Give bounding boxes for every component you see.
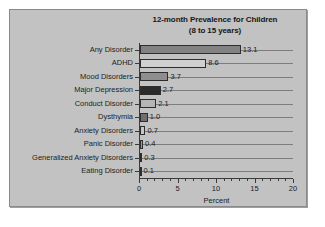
gridline (140, 158, 293, 159)
y-axis-tick (135, 131, 139, 132)
bar (140, 140, 143, 149)
y-axis-tick (135, 104, 139, 105)
category-label: Major Depression (74, 85, 133, 95)
plot-area: Any Disorder13.1ADHD8.6Mood Disorders3.7… (139, 43, 294, 178)
gridline (140, 117, 293, 118)
chart-title-line1: 12-month Prevalence for Children (153, 15, 278, 24)
bar (140, 99, 156, 108)
x-axis-minor-tick (193, 179, 194, 181)
bar (140, 153, 142, 162)
value-label: 2.1 (158, 99, 168, 109)
bar (140, 45, 241, 54)
value-label: 0.4 (145, 139, 155, 149)
x-axis-minor-tick (270, 179, 271, 181)
category-label: Any Disorder (90, 45, 133, 55)
x-axis-tick-label: 20 (289, 184, 297, 193)
bar (140, 86, 161, 95)
x-axis-major-tick (255, 179, 256, 183)
x-axis-minor-tick (224, 179, 225, 181)
x-axis-minor-tick (239, 179, 240, 181)
x-axis-minor-tick (154, 179, 155, 181)
gridline (140, 131, 293, 132)
bar-row: Eating Disorder0.1 (139, 165, 294, 179)
bar-row: Any Disorder13.1 (139, 43, 294, 57)
y-axis-tick (135, 158, 139, 159)
value-label: 13.1 (243, 45, 258, 55)
x-axis-tick-label: 15 (250, 184, 258, 193)
value-label: 0.3 (144, 153, 154, 163)
value-label: 0.7 (147, 126, 157, 136)
bar-row: Dysthymia1.0 (139, 111, 294, 125)
y-axis-tick (135, 171, 139, 172)
x-axis-tick-label: 10 (212, 184, 220, 193)
bar (140, 59, 206, 68)
x-axis-minor-tick (262, 179, 263, 181)
y-axis-tick (135, 144, 139, 145)
x-axis-tick-label: 0 (137, 184, 141, 193)
y-axis-tick (135, 90, 139, 91)
bar-row: Major Depression2.7 (139, 84, 294, 98)
x-axis-minor-tick (285, 179, 286, 181)
x-axis-minor-tick (185, 179, 186, 181)
bar-row: Conduct Disorder2.1 (139, 97, 294, 111)
x-axis-major-tick (139, 179, 140, 183)
bar-row: Panic Disorder0.4 (139, 138, 294, 152)
x-axis-tick-label: 5 (175, 184, 179, 193)
x-axis-minor-tick (208, 179, 209, 181)
y-axis-tick (135, 77, 139, 78)
gridline (140, 171, 293, 172)
x-axis-minor-tick (201, 179, 202, 181)
bar-row: Mood Disorders3.7 (139, 70, 294, 84)
x-axis-major-tick (178, 179, 179, 183)
bar (140, 72, 168, 81)
y-axis-tick (135, 50, 139, 51)
category-label: Conduct Disorder (75, 99, 133, 109)
category-label: Dysthymia (98, 112, 133, 122)
bar-row: Generalized Anxiety Disorders0.3 (139, 151, 294, 165)
value-label: 8.6 (208, 58, 218, 68)
category-label: Mood Disorders (80, 72, 133, 82)
x-axis-major-tick (293, 179, 294, 183)
x-axis-minor-tick (247, 179, 248, 181)
bar-row: ADHD8.6 (139, 57, 294, 71)
bar-row: Anxiety Disorders0.7 (139, 124, 294, 138)
value-label: 1.0 (150, 112, 160, 122)
category-label: Generalized Anxiety Disorders (32, 153, 133, 163)
chart-title: 12-month Prevalence for Children (8 to 1… (130, 15, 300, 36)
y-axis-tick (135, 117, 139, 118)
category-label: Anxiety Disorders (74, 126, 133, 136)
y-axis-tick (135, 63, 139, 64)
x-axis-minor-tick (170, 179, 171, 181)
value-label: 3.7 (170, 72, 180, 82)
value-label: 2.7 (163, 85, 173, 95)
x-axis-title: Percent (139, 196, 294, 205)
x-axis-minor-tick (162, 179, 163, 181)
category-label: ADHD (112, 58, 133, 68)
x-axis-minor-tick (147, 179, 148, 181)
x-axis-minor-tick (278, 179, 279, 181)
chart-title-line2: (8 to 15 years) (130, 26, 300, 37)
category-label: Eating Disorder (81, 166, 133, 176)
chart-figure: 12-month Prevalence for Children (8 to 1… (9, 9, 307, 207)
category-label: Panic Disorder (84, 139, 133, 149)
gridline (140, 144, 293, 145)
bar (140, 113, 148, 122)
value-label: 0.1 (144, 166, 154, 176)
bar (140, 167, 142, 176)
x-axis-minor-tick (231, 179, 232, 181)
x-axis-major-tick (216, 179, 217, 183)
bar (140, 126, 145, 135)
